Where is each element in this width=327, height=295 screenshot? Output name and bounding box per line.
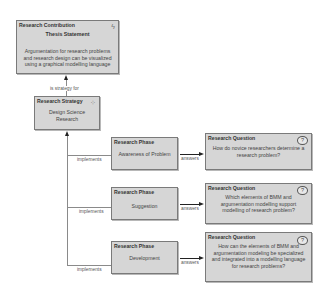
phase-body: Suggestion <box>115 203 174 210</box>
implements-connector-3 <box>67 265 111 266</box>
box-type-label: Research Phase <box>114 139 154 145</box>
box-type-label: Research Contribution <box>19 22 75 28</box>
research-phase-box[interactable]: Research Phase Awareness of Problem <box>111 137 178 170</box>
question-body: Which elements of BMM and argumentation … <box>216 194 301 214</box>
research-phase-box[interactable]: Research Phase Development <box>111 241 178 274</box>
box-type-label: Research Phase <box>114 189 154 195</box>
is-strategy-for-label: is strategy for <box>49 86 80 91</box>
box-type-label: Research Strategy <box>37 98 83 104</box>
phase-body: Awareness of Problem <box>115 151 174 158</box>
network-icon: ⁘ <box>90 99 96 106</box>
box-type-label: Research Question <box>208 185 255 191</box>
answers-label: answers <box>181 260 199 265</box>
answers-connector-2 <box>180 204 200 205</box>
implements-connector-1 <box>67 155 111 156</box>
box-type-label: Research Question <box>208 234 255 240</box>
research-strategy-box[interactable]: Research Strategy ⁘ Design Science Resea… <box>34 96 100 130</box>
thesis-statement-title: Thesis Statement <box>17 31 118 37</box>
arrow-head <box>65 131 69 136</box>
research-question-box[interactable]: Research Question ? How do novice resear… <box>205 133 312 170</box>
question-bubble-icon: ? <box>297 136 308 145</box>
box-type-label: Research Question <box>208 135 255 141</box>
research-question-box[interactable]: Research Question ? Which elements of BM… <box>205 183 312 224</box>
answers-connector-3 <box>180 258 200 259</box>
strategy-body: Design Science Research <box>45 109 89 122</box>
answers-connector-1 <box>180 154 200 155</box>
phase-body: Development <box>115 255 174 262</box>
implements-connector-2 <box>67 207 111 208</box>
answers-label: answers <box>181 206 199 211</box>
box-type-label: Research Phase <box>114 243 154 249</box>
research-phase-box[interactable]: Research Phase Suggestion <box>111 187 178 220</box>
lightning-icon: ϟ <box>111 23 115 30</box>
arrow-head <box>199 256 204 260</box>
question-body: How can the elements of BMM and argument… <box>209 243 308 269</box>
research-contribution-box[interactable]: Research Contribution ϟ Thesis Statement… <box>16 20 119 74</box>
implements-label: implements <box>77 157 102 162</box>
answers-label: answers <box>181 156 199 161</box>
arrow-head <box>199 152 204 156</box>
implements-label: implements <box>79 209 104 214</box>
implements-label: implements <box>77 267 102 272</box>
research-question-box[interactable]: Research Question ? How can the elements… <box>205 232 312 282</box>
question-body: How do novice researchers determine a re… <box>209 145 308 158</box>
arrow-head <box>64 75 68 80</box>
contribution-body: Argumentation for research problems and … <box>20 48 115 68</box>
arrow-head <box>199 202 204 206</box>
